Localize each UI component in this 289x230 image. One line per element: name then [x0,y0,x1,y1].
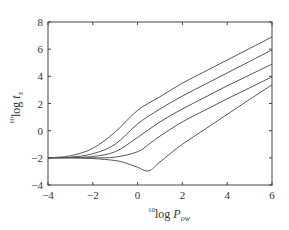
y-axis-label: 10log tx [8,91,25,124]
x-axis-label: 10log Pow [148,206,191,223]
x-tick-label: 4 [224,189,230,201]
x-tick-label: −4 [42,189,54,201]
axis-ticks [48,22,272,185]
x-tick-label: 2 [180,189,186,201]
x-tick-label: 0 [135,189,141,201]
series-line-2 [48,50,272,158]
series-line-5 [48,85,272,171]
x-tick-label: 6 [269,189,275,201]
line-chart: −4−20246 −4−202468 10log Pow 10log tx [0,0,289,230]
y-tick-label: 4 [38,70,44,82]
plot-frame [48,22,272,185]
y-tick-label: 0 [38,125,44,137]
x-tick-label: −2 [87,189,99,201]
series-line-4 [48,77,272,158]
y-tick-label: 8 [38,16,44,28]
plot-lines [48,37,272,171]
y-tick-labels: −4−202468 [31,16,43,191]
x-tick-labels: −4−20246 [42,189,275,201]
series-line-3 [48,64,272,158]
series-line-1 [48,37,272,158]
y-tick-label: −2 [31,152,43,164]
y-tick-label: 2 [38,98,44,110]
y-tick-label: 6 [38,43,44,55]
y-tick-label: −4 [31,179,43,191]
